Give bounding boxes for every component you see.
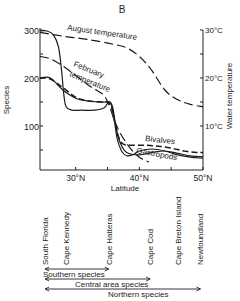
x-axis-label: Latitude bbox=[111, 184, 140, 193]
location-cape-kennedy: Cape Kennedy bbox=[62, 212, 71, 265]
gastropods-label: Gastropods bbox=[136, 146, 178, 162]
species-ranges: Southern speciesCentral area speciesNort… bbox=[43, 267, 200, 299]
y-axis-label: Species bbox=[2, 86, 11, 114]
location-newfoundland: Newfoundland bbox=[196, 214, 205, 265]
bivalves-label: Bivalves bbox=[145, 134, 176, 146]
location-cape-cod: Cape Cod bbox=[146, 229, 155, 265]
x-tick-label: 40°N bbox=[130, 173, 149, 183]
range-label: Central area species bbox=[75, 280, 148, 289]
species-latitude-chart: B 30020010030°C20°C10°C30°N40°N50°N Augu… bbox=[0, 0, 240, 301]
location-cape-breton-island: Cape Breton Island bbox=[174, 197, 183, 266]
range-central-area-species: Central area species bbox=[45, 277, 150, 289]
range-southern-species: Southern species bbox=[43, 267, 109, 279]
y-tick-label: 300 bbox=[24, 26, 39, 36]
location-cape-hatteras: Cape Hatteras bbox=[105, 213, 114, 265]
series-labels: August temperatureFebruarytemperatureBiv… bbox=[67, 23, 178, 162]
range-label: Southern species bbox=[43, 270, 105, 279]
y2-tick-label: 30°C bbox=[205, 26, 223, 35]
total-species-curve bbox=[40, 31, 203, 157]
bivalves-curve bbox=[40, 78, 203, 153]
y-tick-label: 200 bbox=[24, 74, 39, 84]
range-label: Northern species bbox=[108, 290, 168, 299]
location-labels: South FloridaCape KennedyCape HatterasCa… bbox=[41, 197, 205, 266]
panel-label: B bbox=[119, 4, 126, 15]
y2-axis-label: Water temperature bbox=[225, 62, 234, 129]
x-tick-label: 30°N bbox=[66, 173, 85, 183]
data-series bbox=[40, 31, 203, 162]
y2-tick-label: 20°C bbox=[205, 74, 223, 83]
location-south-florida: South Florida bbox=[41, 217, 50, 265]
y-tick-label: 100 bbox=[24, 122, 39, 132]
x-tick-label: 50°N bbox=[194, 173, 213, 183]
august-temperature-label: August temperature bbox=[67, 23, 138, 42]
range-northern-species: Northern species bbox=[45, 287, 200, 299]
y2-tick-label: 10°C bbox=[205, 122, 223, 131]
axis-ticks: 30020010030°C20°C10°C30°N40°N50°N bbox=[24, 26, 223, 184]
